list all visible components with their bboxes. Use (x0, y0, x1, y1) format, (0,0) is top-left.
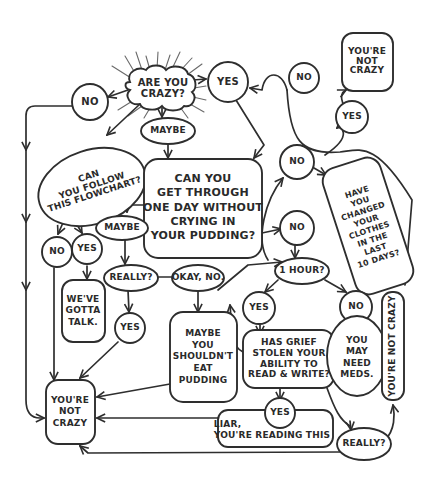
node-okay-no: OKAY, NO. (172, 273, 225, 283)
node-yes-follow: YES (77, 244, 97, 254)
node-youre-not-crazy-vertical: YOU'RE NOT CRAZY (388, 295, 398, 396)
node-youre-not-crazy-top: YOU'RE NOT CRAZY (348, 47, 386, 76)
node-may-need-meds: YOU MAY NEED MEDS. (340, 335, 373, 380)
node-no-follow: NO (49, 247, 65, 257)
node-no-mid: NO (289, 223, 305, 233)
node-yes-really: YES (120, 323, 140, 333)
node-yes-right: YES (342, 112, 362, 122)
node-no-mid-upper: NO (289, 157, 305, 167)
node-youre-not-crazy-bottom: YOU'RE NOT CRAZY (51, 395, 89, 429)
node-shouldnt-eat-pudding: MAYBE YOU SHOULDN'T EAT PUDDING (173, 328, 233, 386)
node-gotta-talk: WE'VE GOTTA TALK. (66, 294, 101, 328)
node-pudding-question: CAN YOU GET THROUGH ONE DAY WITHOUT CRYI… (143, 172, 263, 243)
node-really-bottom: REALLY? (342, 439, 385, 449)
node-grief-question: HAS GRIEF STOLEN YOUR ABILITY TO READ & … (248, 337, 330, 380)
node-maybe-mid: MAYBE (104, 223, 140, 233)
node-maybe-top: MAYBE (150, 126, 186, 136)
node-no-top-right: NO (296, 73, 312, 83)
node-really-mid: REALLY? (109, 273, 152, 283)
node-no-top: NO (81, 97, 98, 108)
node-are-you-crazy: ARE YOU CRAZY? (138, 78, 189, 100)
node-one-hour: 1 HOUR? (279, 266, 324, 276)
node-no-hour: NO (348, 302, 364, 312)
node-yes-top: YES (217, 77, 239, 88)
node-yes-hour: YES (249, 303, 269, 313)
node-liar-reading-this: LIAR, YOU'RE READING THIS (214, 419, 330, 441)
node-yes-grief: YES (269, 408, 291, 418)
